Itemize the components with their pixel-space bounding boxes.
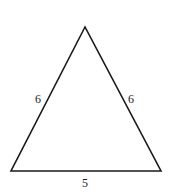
left-side-label: 6 — [35, 92, 41, 106]
triangle-diagram: 6 6 5 — [0, 0, 175, 192]
triangle-shape — [11, 27, 161, 171]
base-label: 5 — [82, 176, 88, 190]
right-side-label: 6 — [128, 92, 134, 106]
